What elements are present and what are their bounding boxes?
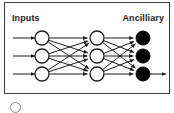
legend-strip bbox=[0, 100, 174, 113]
inputs-layer-label: Inputs bbox=[12, 13, 40, 23]
ancilliary-layer-label: Ancilliary bbox=[122, 13, 164, 23]
hollow-node-swatch-icon bbox=[10, 102, 21, 113]
figure-page: Inputs Ancilliary bbox=[0, 0, 174, 113]
